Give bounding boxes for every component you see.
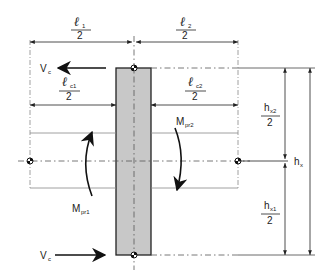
svg-text:2: 2	[66, 91, 72, 102]
svg-text:2: 2	[192, 91, 198, 102]
svg-text:h: h	[294, 156, 300, 167]
svg-text:2: 2	[267, 117, 273, 128]
svg-text:x2: x2	[270, 108, 277, 114]
svg-text:pr2: pr2	[185, 122, 194, 128]
svg-text:ℓ: ℓ	[62, 74, 68, 89]
svg-text:h: h	[264, 102, 270, 113]
dim-l1-over-2: ℓ 1 2	[71, 14, 91, 41]
svg-text:x: x	[300, 162, 303, 168]
moment-arrow-right: M pr2	[175, 116, 194, 190]
svg-text:2: 2	[188, 23, 192, 29]
svg-text:pr1: pr1	[81, 209, 90, 215]
svg-text:M: M	[72, 203, 80, 214]
svg-text:M: M	[176, 116, 184, 127]
svg-text:ℓ: ℓ	[180, 14, 186, 29]
dim-l2-over-2: ℓ 2 2	[176, 14, 196, 41]
svg-text:h: h	[264, 200, 270, 211]
dim-lc2-over-2: ℓ c2 2	[185, 74, 206, 102]
svg-text:V: V	[40, 63, 47, 74]
svg-text:2: 2	[77, 30, 83, 41]
svg-text:c1: c1	[70, 83, 77, 89]
shear-arrow-bottom: V c	[40, 250, 105, 262]
moment-arrow-left: M pr1	[72, 132, 92, 215]
svg-text:2: 2	[267, 215, 273, 226]
dim-hx: h x	[294, 156, 303, 168]
hinge-icon-left	[27, 158, 33, 164]
svg-text:ℓ: ℓ	[188, 74, 194, 89]
svg-text:2: 2	[182, 30, 188, 41]
svg-text:1: 1	[82, 23, 86, 29]
dim-hx2-over-2: h x2 2	[261, 102, 280, 128]
svg-text:ℓ: ℓ	[74, 14, 80, 29]
shear-arrow-top: V c	[40, 63, 106, 75]
svg-text:c: c	[48, 69, 51, 75]
svg-text:c2: c2	[196, 83, 203, 89]
hinge-icon-bottom	[131, 252, 137, 258]
hinge-icon-top	[131, 65, 137, 71]
svg-text:x1: x1	[270, 206, 277, 212]
joint-diagram: ℓ 1 2 ℓ 2 2 ℓ c1 2 ℓ c2 2 V c V c M	[0, 0, 326, 280]
svg-text:c: c	[48, 256, 51, 262]
beam-centerline	[18, 68, 315, 255]
dim-lc1-over-2: ℓ c1 2	[59, 74, 80, 102]
dim-hx1-over-2: h x1 2	[261, 200, 280, 226]
svg-text:V: V	[40, 250, 47, 261]
